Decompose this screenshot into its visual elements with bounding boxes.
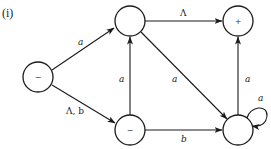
edge-label-q3-q4: b bbox=[181, 134, 187, 144]
state-q1 bbox=[115, 6, 145, 36]
state-q0: − bbox=[23, 62, 53, 92]
edge-label-q3-q1: a bbox=[119, 74, 124, 84]
edge-label-q1-q4: a bbox=[172, 74, 177, 84]
state-q2-accepting: + bbox=[223, 6, 253, 36]
automaton-diagram: (i) a Λ, b Λ a a b a a − + − bbox=[0, 0, 271, 149]
state-q4 bbox=[223, 115, 253, 145]
edge-label-q4-q4: a bbox=[258, 93, 263, 103]
edge-label-q4-q2: a bbox=[245, 74, 250, 84]
edge-q1-q4 bbox=[141, 32, 227, 119]
edge-q0-q3 bbox=[52, 85, 115, 123]
state-q2-label: + bbox=[235, 17, 242, 26]
diagram-caption: (i) bbox=[2, 6, 13, 20]
edge-q0-q1 bbox=[52, 28, 114, 70]
state-q3-label: − bbox=[127, 126, 134, 135]
edge-label-q1-q2: Λ bbox=[179, 8, 187, 18]
state-q3: − bbox=[115, 115, 145, 145]
edge-label-q0-q3: Λ, b bbox=[65, 106, 84, 116]
state-q0-label: − bbox=[35, 73, 42, 82]
edge-label-q0-q1: a bbox=[78, 37, 83, 47]
